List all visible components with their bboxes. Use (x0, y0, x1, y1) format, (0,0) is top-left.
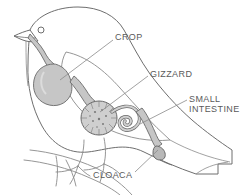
label-crop: CROP (115, 32, 143, 42)
label-cloaca-line-1: CLOACA (93, 170, 132, 180)
label-crop-line-1: CROP (115, 32, 143, 42)
label-small-intestine-line-2: INTESTINE (189, 104, 240, 114)
label-gizzard-line-1: GIZZARD (150, 69, 192, 79)
label-cloaca: CLOACA (93, 170, 132, 180)
bird-eye (38, 27, 44, 33)
label-small-intestine-line-1: SMALL (189, 94, 240, 104)
label-small-intestine: SMALL INTESTINE (189, 94, 240, 114)
label-gizzard: GIZZARD (150, 69, 192, 79)
crop-organ (34, 64, 72, 106)
bird-digestive-system-diagram: CROP GIZZARD SMALL INTESTINE CLOACA (0, 0, 246, 195)
gizzard-organ (81, 101, 117, 135)
